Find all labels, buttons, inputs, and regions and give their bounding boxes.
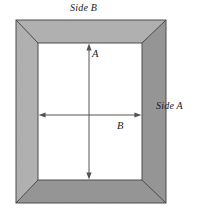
figure-container: Side B Side A A B (0, 0, 197, 210)
label-dimension-b: B (117, 121, 124, 132)
label-side-a: Side A (156, 101, 183, 111)
label-dimension-a: A (92, 49, 99, 60)
label-side-b: Side B (70, 3, 97, 13)
